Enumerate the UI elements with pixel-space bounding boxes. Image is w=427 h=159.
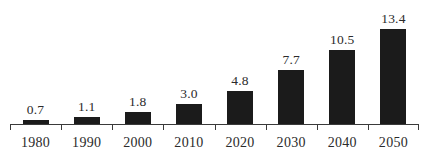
- bar-value-label: 0.7: [10, 103, 61, 117]
- bar-group-2040: 10.5: [317, 0, 368, 125]
- x-axis-tick: [163, 124, 164, 130]
- bar-value-label: 4.8: [215, 74, 266, 88]
- x-axis-label-2000: 2000: [112, 133, 163, 155]
- bar-value-label: 13.4: [368, 12, 419, 26]
- bars-container: 0.7 1.1 1.8 3.0 4.8 7.7: [10, 0, 419, 125]
- bar-rect: [176, 104, 202, 125]
- bar-value-label: 10.5: [317, 33, 368, 47]
- bar-value-label: 1.1: [61, 100, 112, 114]
- x-axis-tick: [368, 124, 369, 130]
- bar-rect: [329, 50, 355, 125]
- x-axis-label-2040: 2040: [317, 133, 368, 155]
- bar-group-1980: 0.7: [10, 0, 61, 125]
- x-axis-label-1990: 1990: [61, 133, 112, 155]
- x-axis-tick: [215, 124, 216, 130]
- bar-rect: [227, 91, 253, 125]
- x-axis-ticks: [10, 124, 419, 130]
- bar-value-label: 7.7: [266, 53, 317, 67]
- bar-group-2000: 1.8: [112, 0, 163, 125]
- bar-rect: [380, 29, 406, 125]
- x-axis-tick: [10, 124, 11, 130]
- x-axis-label-1980: 1980: [10, 133, 61, 155]
- bar-group-1990: 1.1: [61, 0, 112, 125]
- bar-group-2020: 4.8: [215, 0, 266, 125]
- x-axis-labels: 1980 1990 2000 2010 2020 2030 2040 2050: [10, 133, 419, 155]
- plot-area: 0.7 1.1 1.8 3.0 4.8 7.7: [10, 0, 419, 125]
- x-axis-label-2020: 2020: [215, 133, 266, 155]
- x-axis-label-2050: 2050: [368, 133, 419, 155]
- x-axis-tick: [112, 124, 113, 130]
- x-axis-tick: [317, 124, 318, 130]
- bar-rect: [278, 70, 304, 125]
- bar-group-2030: 7.7: [266, 0, 317, 125]
- bar-chart: 0.7 1.1 1.8 3.0 4.8 7.7: [0, 0, 427, 159]
- x-axis-tick: [418, 124, 419, 130]
- x-axis-tick: [266, 124, 267, 130]
- x-axis-label-2010: 2010: [163, 133, 214, 155]
- bar-value-label: 1.8: [112, 95, 163, 109]
- x-axis-label-2030: 2030: [266, 133, 317, 155]
- bar-value-label: 3.0: [163, 87, 214, 101]
- x-axis-tick: [61, 124, 62, 130]
- bar-group-2050: 13.4: [368, 0, 419, 125]
- bar-group-2010: 3.0: [163, 0, 214, 125]
